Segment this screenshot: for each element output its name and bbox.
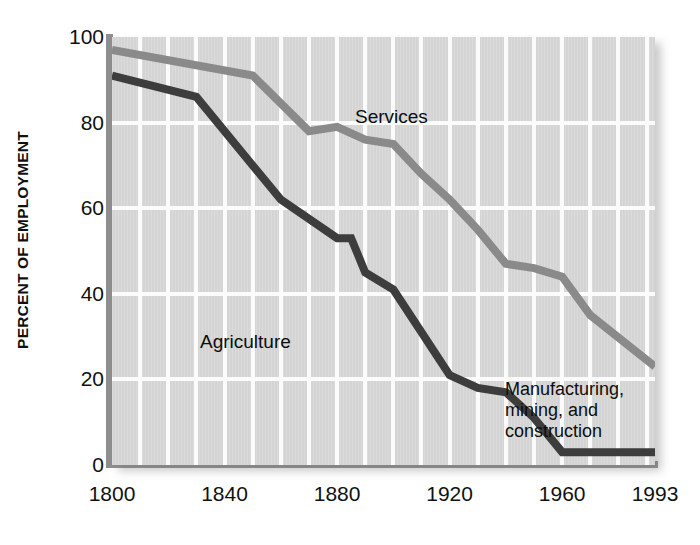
x-tick-label: 1800 [89,482,136,506]
y-axis-tick-labels: 020406080100 [46,0,104,545]
y-tick-label: 40 [50,282,104,306]
y-tick-label: 20 [50,367,104,391]
y-tick-label: 0 [50,453,104,477]
annotation-agriculture: Agriculture [200,331,291,353]
x-tick-label: 1880 [314,482,361,506]
y-tick-label: 60 [50,196,104,220]
y-tick-label: 100 [50,25,104,49]
y-axis-title: PERCENT OF EMPLOYMENT [6,0,40,480]
annotation-manufacturing-mining-construction: Manufacturing, mining, and construction [505,379,624,443]
annotation-services: Services [355,106,428,128]
x-axis-tick-labels: 180018401880192019601993 [0,482,700,522]
x-tick-label: 1993 [632,482,679,506]
chart-figure: PERCENT OF EMPLOYMENT 020406080100 Servi… [0,0,700,545]
y-tick-label: 80 [50,111,104,135]
x-tick-label: 1960 [539,482,586,506]
x-tick-label: 1840 [201,482,248,506]
x-tick-label: 1920 [426,482,473,506]
y-axis-title-text: PERCENT OF EMPLOYMENT [14,131,32,349]
